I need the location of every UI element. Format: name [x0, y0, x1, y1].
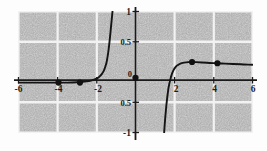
xtick-label-neg6: -6: [15, 84, 23, 94]
data-point: [77, 79, 83, 85]
data-point: [55, 79, 61, 85]
xtick-label-4: 4: [212, 84, 217, 94]
ytick-label-neg0point5: 0.5: [120, 98, 131, 108]
data-point: [214, 60, 220, 66]
ytick-label-0point5: 0.5: [120, 37, 131, 47]
xtick-label-2: 2: [174, 84, 179, 94]
chart-figure: -6 -4 -2 2 4 6 1 0.5 0.5 -1 0: [0, 0, 267, 151]
ytick-label-neg1: -1: [123, 128, 131, 138]
xtick-label-6: 6: [251, 84, 256, 94]
ytick-label-1: 1: [126, 7, 131, 17]
data-point: [132, 75, 138, 81]
xtick-label-neg2: -2: [94, 84, 102, 94]
origin-label: 0: [128, 69, 132, 79]
data-point: [189, 59, 195, 65]
chart-canvas: -6 -4 -2 2 4 6 1 0.5 0.5 -1 0: [0, 0, 267, 151]
